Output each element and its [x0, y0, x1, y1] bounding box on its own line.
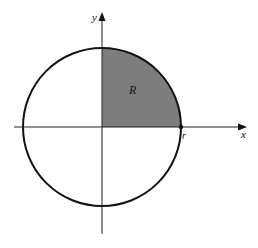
y-axis-label: y: [91, 11, 97, 23]
region-label: R: [128, 83, 137, 97]
region-r-shading: [102, 48, 181, 127]
y-axis-arrow-icon: [99, 12, 106, 21]
circle-diagram: y x R r: [0, 0, 258, 248]
radius-label: r: [182, 130, 186, 141]
x-axis-label: x: [240, 128, 246, 140]
radius-point: [179, 125, 183, 129]
